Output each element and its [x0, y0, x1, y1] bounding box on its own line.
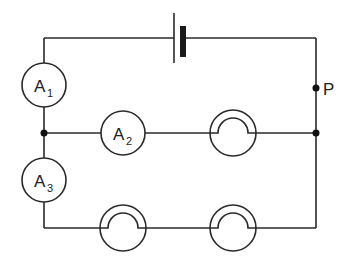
ammeter-a2: A 2: [101, 111, 145, 155]
ammeter-a1: A 1: [22, 63, 66, 107]
lamp-icon: [210, 110, 256, 156]
lamp-icon: [210, 205, 256, 251]
ammeter-a3: A 3: [22, 158, 66, 202]
junction-dot-right: [313, 130, 320, 137]
ammeter-a1-subscript: 1: [47, 87, 53, 99]
ammeter-a3-subscript: 3: [47, 182, 53, 194]
lamp-icon: [100, 205, 146, 251]
wires: [44, 38, 316, 228]
ammeter-a3-letter: A: [34, 172, 46, 191]
ammeter-a1-letter: A: [34, 77, 46, 96]
point-p-dot: [313, 85, 320, 92]
battery-icon: [174, 13, 186, 63]
junctions: [41, 85, 320, 137]
circuit-diagram: A 1 A 2 A 3 P: [0, 0, 352, 265]
junction-dot-left: [41, 130, 48, 137]
ammeter-a2-letter: A: [113, 125, 125, 144]
point-p-label: P: [323, 80, 334, 99]
ammeter-a2-subscript: 2: [126, 135, 132, 147]
